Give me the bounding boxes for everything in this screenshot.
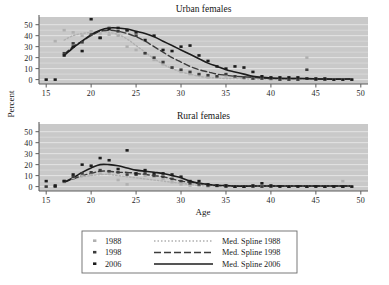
data-point (117, 179, 120, 182)
data-point (125, 149, 128, 152)
data-point (242, 185, 245, 188)
data-point (108, 159, 111, 162)
x-axis-title: Age (196, 207, 211, 217)
data-point (143, 172, 146, 175)
data-point (206, 74, 209, 77)
data-point (134, 31, 137, 34)
data-point (161, 175, 164, 178)
y-tick-label: 50 (24, 21, 33, 30)
data-point (224, 184, 227, 187)
y-tick-label: 10 (24, 65, 33, 74)
data-point (117, 34, 120, 37)
data-point (323, 77, 326, 80)
data-point (54, 78, 57, 81)
data-point (90, 18, 93, 21)
data-point (332, 78, 335, 81)
legend-year-label-1988: 1988 (105, 237, 121, 246)
y-tick-label: 40 (24, 139, 33, 148)
data-point (125, 183, 128, 186)
data-point (134, 49, 137, 52)
data-point (170, 173, 173, 176)
data-point (125, 173, 128, 176)
data-point (341, 185, 344, 188)
data-point (314, 77, 317, 80)
data-point (215, 75, 218, 78)
data-point (242, 76, 245, 79)
data-point (117, 27, 120, 30)
data-point (134, 34, 137, 37)
x-tick-label: 35 (222, 196, 231, 205)
data-point (314, 185, 317, 188)
x-tick-label: 45 (311, 89, 320, 98)
y-tick-label: 20 (24, 54, 33, 63)
y-tick-label: 50 (24, 128, 33, 137)
panel-urban-females: 010203040501520253035404550Urban females (24, 4, 368, 98)
data-point (45, 78, 48, 81)
data-point (45, 185, 48, 188)
x-tick-label: 40 (267, 196, 276, 205)
data-point (170, 66, 173, 69)
y-tick-label: 40 (24, 32, 33, 41)
data-point (134, 172, 137, 175)
data-point (260, 185, 263, 188)
data-point (170, 181, 173, 184)
y-tick-label: 30 (24, 150, 33, 159)
data-point (197, 180, 200, 183)
data-point (305, 77, 308, 80)
y-tick-label: 0 (29, 183, 33, 192)
data-point (305, 185, 308, 188)
data-point (179, 180, 182, 183)
data-point (233, 75, 236, 78)
data-point (81, 172, 84, 175)
data-point (215, 184, 218, 187)
data-point (143, 52, 146, 55)
data-point (287, 76, 290, 79)
data-point (179, 175, 182, 178)
legend-spline-label-1998: Med. Spline 1998 (222, 248, 280, 257)
data-point (305, 68, 308, 71)
data-point (108, 28, 111, 31)
data-point (242, 66, 245, 69)
data-point (63, 29, 66, 32)
data-point (152, 34, 155, 37)
data-point (278, 76, 281, 79)
data-point (260, 75, 263, 78)
data-point (341, 78, 344, 81)
data-point (197, 183, 200, 186)
data-point (99, 37, 102, 40)
y-axis-title: Percent (6, 90, 16, 117)
x-tick-label: 45 (311, 196, 320, 205)
data-point (125, 29, 128, 32)
data-point (72, 173, 75, 176)
legend-marker-2006 (93, 262, 96, 265)
data-point (197, 73, 200, 76)
y-tick-label: 0 (29, 76, 33, 85)
data-point (278, 185, 281, 188)
data-point (99, 32, 102, 35)
data-point (224, 73, 227, 76)
data-point (251, 71, 254, 74)
x-tick-label: 25 (132, 196, 141, 205)
data-point (224, 67, 227, 70)
panel-title: Urban females (176, 4, 232, 14)
data-point (99, 157, 102, 160)
data-point (206, 183, 209, 186)
data-point (108, 170, 111, 173)
data-point (188, 180, 191, 183)
legend-spline-label-2006: Med. Spline 2006 (222, 260, 280, 269)
data-point (72, 42, 75, 45)
data-point (251, 184, 254, 187)
data-point (152, 56, 155, 59)
data-point (117, 30, 120, 33)
data-point (45, 180, 48, 183)
data-point (81, 34, 84, 37)
x-tick-label: 20 (87, 89, 96, 98)
data-point (296, 76, 299, 79)
legend-marker-1998 (93, 251, 96, 254)
y-tick-label: 30 (24, 43, 33, 52)
data-point (117, 168, 120, 171)
data-point (233, 185, 236, 188)
data-point (117, 171, 120, 174)
x-tick-label: 40 (267, 89, 276, 98)
legend-year-label-1998: 1998 (105, 248, 121, 257)
